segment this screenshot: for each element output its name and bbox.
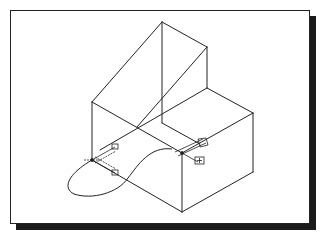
inner-step-edge bbox=[162, 123, 200, 144]
box-top-front-edge bbox=[182, 113, 253, 153]
isometric-drawing bbox=[0, 0, 320, 233]
connector-anchor-point bbox=[181, 152, 184, 155]
wedge-top-edge bbox=[162, 22, 207, 47]
front-top-edge bbox=[92, 102, 182, 153]
edges-group bbox=[92, 22, 253, 212]
drawing-canvas bbox=[0, 0, 320, 233]
step-front-edge bbox=[100, 88, 207, 150]
left-dimension-marker bbox=[84, 144, 118, 175]
step-right-edge bbox=[207, 88, 253, 113]
right-connector-marker bbox=[175, 138, 208, 164]
wedge-diagonal bbox=[137, 47, 207, 127]
freeform-curve bbox=[68, 149, 172, 196]
dim-anchor-point bbox=[91, 159, 94, 162]
connector-leg bbox=[182, 153, 198, 162]
box-bottom-right-edge bbox=[182, 172, 253, 212]
wedge-left-slope bbox=[92, 22, 162, 102]
